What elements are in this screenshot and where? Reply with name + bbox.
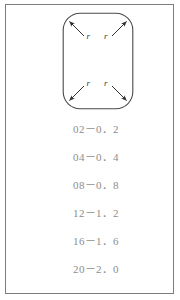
corner-label-top-left: r xyxy=(87,31,91,41)
list-item: 08－0．8 xyxy=(6,171,180,199)
corner-arrow-top-right xyxy=(112,22,127,37)
list-item: 20－2．0 xyxy=(6,255,180,283)
radius-value-list: 02－0．2 04－0．4 08－0．8 12－1．2 16－1．6 20－2．… xyxy=(6,115,180,283)
corner-label-bottom-right: r xyxy=(104,78,108,88)
list-item: 12－1．2 xyxy=(6,199,180,227)
list-item: 16－1．6 xyxy=(6,227,180,255)
outer-frame-border: r r r r 02－0．2 04－0．4 08－0．8 12－1．2 16－1… xyxy=(5,4,174,294)
corner-label-top-right: r xyxy=(104,31,108,41)
corner-arrow-bottom-left xyxy=(70,86,85,101)
rounded-rectangle-corner-radius-diagram: r r r r xyxy=(62,12,134,110)
list-item: 02－0．2 xyxy=(6,115,180,143)
list-item: 04－0．4 xyxy=(6,143,180,171)
corner-arrow-bottom-right xyxy=(112,86,127,101)
corner-label-bottom-left: r xyxy=(87,78,91,88)
rounded-rectangle-outline xyxy=(63,13,133,109)
corner-arrow-top-left xyxy=(70,22,85,37)
page-root: r r r r 02－0．2 04－0．4 08－0．8 12－1．2 16－1… xyxy=(0,0,180,300)
